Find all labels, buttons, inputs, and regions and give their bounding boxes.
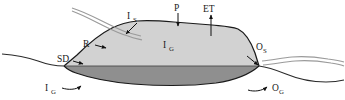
wetland-water-balance-figure: I S P ET R SD I G O S I <box>0 0 345 100</box>
label-inflow-surface-sub: S <box>133 16 137 23</box>
diagram-canvas: I S P ET R SD I G O S I <box>0 0 345 100</box>
label-outflow-groundwater: O G <box>272 83 284 95</box>
label-runoff-base: R <box>83 39 90 49</box>
label-runoff: R <box>83 39 90 49</box>
label-outflow-surface-sub: S <box>263 47 267 54</box>
label-inflow-surface: I S <box>127 11 137 23</box>
ground-surface-right <box>259 66 344 82</box>
label-evapotranspiration: ET <box>203 4 215 14</box>
inflow-groundwater-arrow <box>62 86 81 89</box>
label-evapotranspiration-base: ET <box>203 4 215 14</box>
label-outflow-surface-base: O <box>256 42 263 52</box>
ground-surface-left <box>2 54 64 66</box>
label-storage-groundwater-center-base: I <box>163 40 166 50</box>
label-outflow-groundwater-base: O <box>272 83 279 93</box>
outflow-stream-bank-lower <box>263 61 344 66</box>
saturated-zone-fill <box>64 66 259 85</box>
label-surface-depression-base: SD <box>57 54 69 64</box>
label-inflow-groundwater-base: I <box>45 83 48 93</box>
label-inflow-groundwater: I G <box>45 83 56 95</box>
label-surface-depression: SD <box>57 54 69 64</box>
label-precipitation-base: P <box>174 3 179 13</box>
label-storage-groundwater-center-sub: G <box>169 45 174 52</box>
label-outflow-groundwater-sub: G <box>279 88 284 95</box>
label-inflow-surface-base: I <box>127 11 130 21</box>
label-inflow-groundwater-sub: G <box>51 88 56 95</box>
outflow-groundwater-arrow <box>248 87 267 91</box>
label-outflow-surface: O S <box>256 42 267 54</box>
label-precipitation: P <box>174 3 179 13</box>
